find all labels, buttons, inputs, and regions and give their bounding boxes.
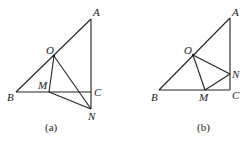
figure-b: A O B M C N (b) bbox=[151, 6, 240, 134]
label-M: M bbox=[37, 79, 48, 91]
segment-MN bbox=[205, 74, 230, 90]
label-O: O bbox=[46, 44, 54, 56]
segment-OM bbox=[49, 56, 54, 92]
geometry-diagram: A O B M C N (a) A O B M C N (b) bbox=[0, 0, 248, 150]
label-B: B bbox=[7, 91, 14, 103]
segment-AB bbox=[159, 18, 230, 90]
label-O: O bbox=[184, 44, 192, 56]
point-O bbox=[192, 54, 194, 56]
label-A: A bbox=[231, 6, 239, 18]
label-N: N bbox=[87, 110, 96, 122]
caption-b: (b) bbox=[197, 121, 210, 134]
label-N: N bbox=[231, 68, 240, 80]
label-A: A bbox=[92, 6, 100, 18]
label-B: B bbox=[151, 91, 158, 103]
caption-a: (a) bbox=[45, 121, 58, 134]
figure-a: A O B M C N (a) bbox=[7, 6, 102, 134]
label-C: C bbox=[232, 89, 240, 101]
label-C: C bbox=[94, 86, 102, 98]
label-M: M bbox=[198, 91, 209, 103]
